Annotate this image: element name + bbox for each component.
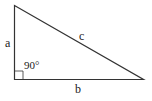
label-a: a bbox=[5, 36, 11, 50]
label-angle-90: 90° bbox=[24, 59, 39, 71]
label-b: b bbox=[75, 82, 81, 96]
right-triangle-diagram: a c b 90° bbox=[0, 0, 152, 101]
label-c: c bbox=[79, 29, 84, 43]
right-angle-marker bbox=[15, 71, 24, 80]
